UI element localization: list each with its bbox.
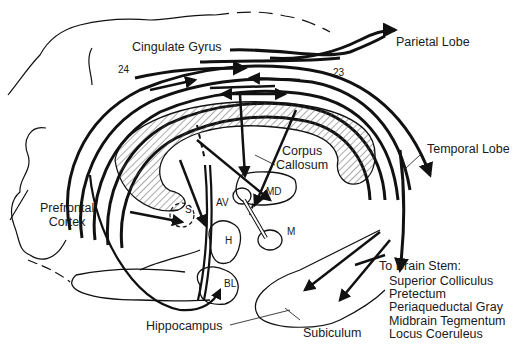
brain-stem-target: Periaqueductal Gray: [389, 301, 506, 314]
brain-stem-targets: Superior Colliculus Pretectum Periaquedu…: [389, 275, 506, 341]
area-24-label: 24: [118, 63, 129, 77]
av-label: AV: [216, 196, 229, 210]
m-label: M: [287, 225, 295, 239]
subiculum-arrows: [305, 232, 390, 300]
corpus-label-line1: Corpus: [276, 144, 328, 158]
brain-stem-target: Midbrain Tegmentum: [389, 315, 506, 328]
septum-label: S: [185, 203, 192, 217]
prefrontal-line1: Prefrontal: [40, 201, 94, 215]
cingulate-gyrus-label: Cingulate Gyrus: [132, 40, 222, 54]
brain-stem-target: Locus Coeruleus: [389, 328, 506, 341]
thalamic-nuclei: [72, 172, 297, 304]
area-23-label: 23: [333, 66, 344, 80]
corpus-callosum-label: Corpus Callosum: [276, 144, 328, 172]
brain-stem-heading: To Brain Stem:: [379, 259, 461, 273]
corpus-label-line2: Callosum: [276, 158, 328, 172]
temporal-lobe-label: Temporal Lobe: [427, 142, 510, 156]
h-label: H: [225, 234, 232, 248]
md-label: MD: [266, 185, 282, 199]
bl-label: BL: [224, 277, 236, 291]
subiculum-label: Subiculum: [303, 326, 361, 340]
prefrontal-cortex-label: Prefrontal Cortex: [40, 201, 94, 229]
parietal-lobe-label: Parietal Lobe: [396, 35, 470, 49]
hippocampus-label: Hippocampus: [146, 319, 222, 333]
prefrontal-line2: Cortex: [40, 215, 94, 229]
